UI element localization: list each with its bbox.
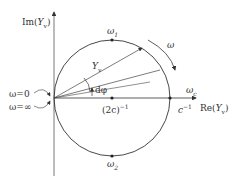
intercept-label: c−1	[178, 104, 192, 115]
omega-c-label: ωc	[186, 86, 197, 97]
imaginary-axis-label: Im(Yv)	[22, 18, 50, 29]
omega2-point	[110, 154, 113, 157]
omega1-point	[110, 38, 113, 41]
omega2-label: ω2	[107, 160, 118, 171]
omega1-label: ω1	[107, 27, 118, 38]
omega-zero-arrow	[34, 90, 50, 96]
center-point	[110, 96, 113, 99]
omega-inf-arrow	[34, 101, 50, 108]
omega-zero-label: ω=0	[9, 90, 30, 99]
omega-c-point	[168, 96, 171, 99]
dphi-label: dφ	[95, 86, 107, 95]
omega-inf-label: ω=∞	[9, 103, 31, 112]
phasor-label: Yv	[92, 62, 101, 73]
real-axis-label: Re(Yv)	[200, 104, 228, 115]
omega-direction-label: ω	[167, 41, 174, 50]
center-label: (2c)−1	[102, 104, 129, 115]
